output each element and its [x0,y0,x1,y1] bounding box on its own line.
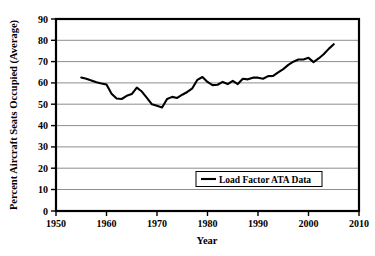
y-tick-label-80: 80 [38,35,48,46]
x-axis-title: Year [197,235,218,246]
x-tick-label-2010: 2010 [349,218,369,229]
y-tick-label-20: 20 [38,163,48,174]
x-tick-label-1980: 1980 [198,218,218,229]
legend-label-load-factor: Load Factor ATA Data [219,175,311,185]
y-tick-label-50: 50 [38,99,48,110]
x-tick-label-2000: 2000 [299,218,319,229]
y-tick-label-30: 30 [38,141,48,152]
chart-canvas: 90 80 70 60 50 40 30 20 10 0 1950 1960 1… [0,0,375,256]
x-tick-label-1960: 1960 [97,218,117,229]
y-axis-title: Percent Aircraft Seats Occupied (Average… [8,19,20,210]
y-tick-label-0: 0 [43,206,48,217]
x-tick-label-1970: 1970 [147,218,167,229]
chart-figure: 90 80 70 60 50 40 30 20 10 0 1950 1960 1… [0,0,375,256]
x-tick-label-1950: 1950 [46,218,66,229]
legend: Load Factor ATA Data [196,172,322,187]
x-tick-label-1990: 1990 [248,218,268,229]
y-tick-label-90: 90 [38,14,48,25]
y-tick-label-10: 10 [38,184,48,195]
y-tick-label-70: 70 [38,56,48,67]
y-tick-label-40: 40 [38,120,48,131]
y-tick-label-60: 60 [38,77,48,88]
